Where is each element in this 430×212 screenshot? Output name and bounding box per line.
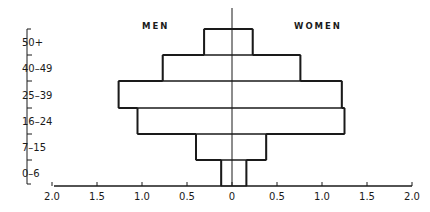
y-tick-label: 0–6 [22,168,40,179]
x-tick-label: 2.0 [44,191,60,202]
bar-7-15 [196,134,266,160]
x-tick-label: 0.5 [269,191,285,202]
y-tick-label: 50+ [22,37,43,48]
x-tick-label: 0 [229,191,235,202]
x-tick-label: 1.0 [314,191,330,202]
bar-50+ [204,29,253,55]
x-tick-label: 1.5 [89,191,105,202]
x-tick-label: 1.5 [359,191,375,202]
bar-25-39 [119,81,342,108]
y-axis: 50+40–4925–3916–247–150–6 [22,29,52,184]
population-pyramid-chart: 50+40–4925–3916–247–150–6 2.01.51.00.500… [0,0,430,212]
x-tick-label: 0.5 [179,191,195,202]
x-tick-label: 2.0 [404,191,420,202]
women-label: WOMEN [294,21,342,31]
x-tick-label: 1.0 [134,191,150,202]
men-label: MEN [142,21,169,31]
bar-16-24 [138,108,345,134]
y-tick-label: 7–15 [22,142,46,153]
bar-0-6 [221,160,246,186]
